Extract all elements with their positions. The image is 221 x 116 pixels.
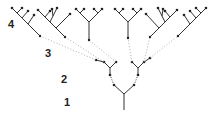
level-label-1: 1 xyxy=(64,97,70,108)
tree-diagram xyxy=(0,0,221,116)
level-2-3-nodes xyxy=(95,57,152,87)
level-label-4: 4 xyxy=(8,19,14,30)
level-label-3: 3 xyxy=(45,48,51,59)
level-label-2: 2 xyxy=(61,74,67,85)
level-4-subtrees xyxy=(12,8,206,40)
dotted-connectors xyxy=(40,36,178,62)
trunk xyxy=(96,58,150,110)
